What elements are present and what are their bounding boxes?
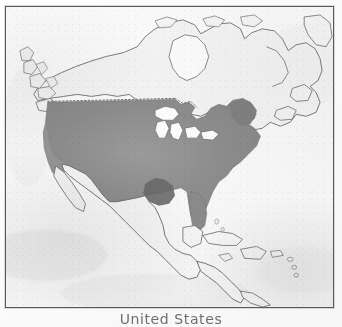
yucatan-peninsula xyxy=(183,226,203,248)
map-canvas xyxy=(6,7,333,307)
north-america-map xyxy=(6,7,333,307)
figure-page: United States xyxy=(0,0,342,327)
figure-caption: United States xyxy=(0,311,342,327)
figure-caption-text: United States xyxy=(0,311,342,327)
map-frame xyxy=(5,6,334,308)
